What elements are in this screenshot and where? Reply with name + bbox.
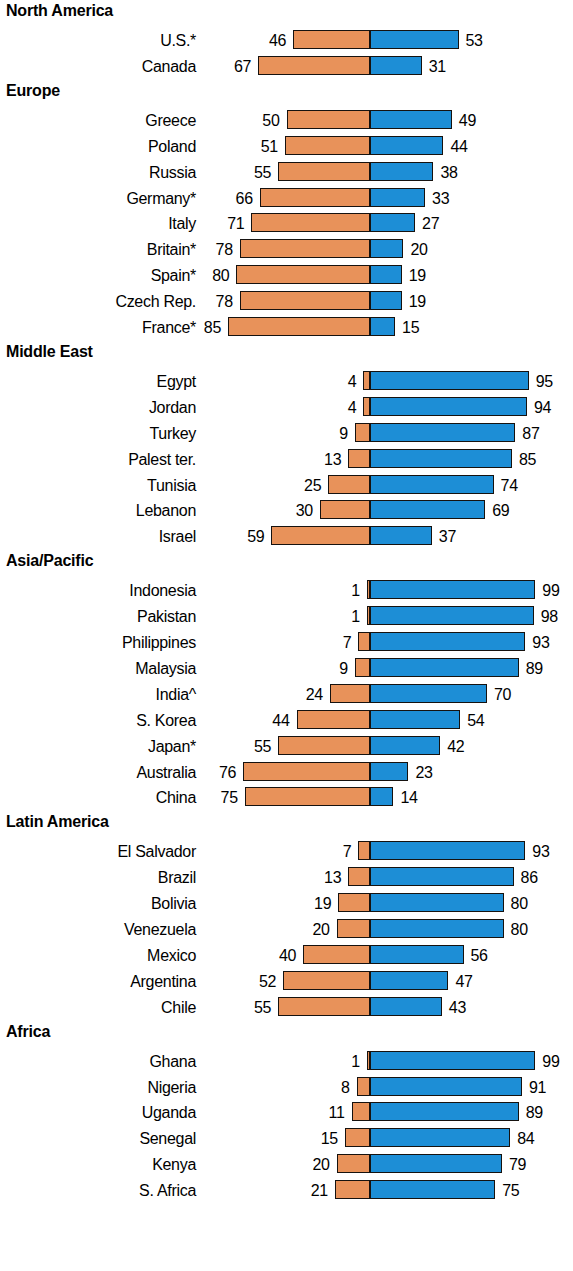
value-label-left: 13 [0,450,341,469]
value-label-right: 95 [536,372,553,391]
value-label-left: 66 [0,189,253,208]
value-label-right: 89 [526,1103,543,1122]
bar-segment-left [260,188,370,207]
bar-segment-right [370,110,452,129]
value-label-right: 85 [519,450,536,469]
value-label-left: 1 [0,1052,360,1071]
value-label-right: 89 [526,659,543,678]
value-label-right: 38 [440,163,457,182]
value-label-right: 80 [511,894,528,913]
chart-row: Canada6731 [0,55,573,78]
chart-row: U.S.*4653 [0,29,573,52]
value-label-right: 37 [439,527,456,546]
chart-row: Greece5049 [0,109,573,132]
bar-segment-right [370,500,485,519]
chart-row: Spain*8019 [0,264,573,287]
bar-segment-left [328,475,370,494]
value-label-right: 43 [449,998,466,1017]
bar-segment-right [370,580,535,599]
bar-segment-right [370,632,525,651]
value-label-right: 99 [542,1052,559,1071]
chart-row: S. Africa2175 [0,1179,573,1202]
chart-row: Italy7127 [0,212,573,235]
bar-segment-left [285,136,370,155]
bar-segment-right [370,423,515,442]
bar-segment-right [370,188,425,207]
value-label-left: 78 [0,292,233,311]
bar-segment-right [370,213,415,232]
bar-segment-left [245,787,370,806]
chart-row: Senegal1584 [0,1127,573,1150]
value-label-left: 20 [0,920,330,939]
chart-row: Tunisia2574 [0,474,573,497]
value-label-left: 71 [0,214,244,233]
bar-segment-right [370,1102,519,1121]
bar-segment-left [357,1077,370,1096]
bar-segment-left [358,841,370,860]
bar-segment-left [337,919,370,938]
bar-segment-right [370,475,494,494]
value-label-left: 15 [0,1129,338,1148]
chart-row: Indonesia199 [0,579,573,602]
bar-segment-left [348,867,370,886]
bar-segment-right [370,1180,495,1199]
value-label-right: 31 [429,57,446,76]
value-label-right: 42 [447,737,464,756]
bar-segment-right [370,162,433,181]
region-heading: Latin America [6,813,109,830]
bar-segment-right [370,136,443,155]
chart-row: Bolivia1980 [0,892,573,915]
bar-segment-right [370,736,440,755]
value-label-right: 53 [466,31,483,50]
value-label-left: 9 [0,659,348,678]
chart-row: Kenya2079 [0,1153,573,1176]
diverging-bar-chart: North AmericaU.S.*4653Canada6731EuropeGr… [0,0,573,1271]
chart-row: Philippines793 [0,631,573,654]
bar-segment-left [271,526,370,545]
value-label-right: 94 [534,398,551,417]
bar-segment-right [370,606,534,625]
value-label-left: 25 [0,476,321,495]
value-label-right: 47 [455,972,472,991]
value-label-left: 30 [0,501,313,520]
value-label-right: 84 [517,1129,534,1148]
bar-segment-left [345,1128,370,1147]
bar-segment-left [320,500,370,519]
value-label-right: 75 [502,1181,519,1200]
chart-row: El Salvador793 [0,840,573,863]
chart-row: Poland5144 [0,135,573,158]
bar-segment-right [370,30,459,49]
value-label-left: 59 [0,527,264,546]
value-label-left: 51 [0,137,278,156]
value-label-right: 19 [409,292,426,311]
value-label-right: 44 [450,137,467,156]
value-label-left: 52 [0,972,276,991]
bar-segment-right [370,919,504,938]
chart-row: Palest ter.1385 [0,448,573,471]
bar-segment-left [240,239,370,258]
value-label-right: 69 [492,501,509,520]
bar-segment-left [283,971,370,990]
value-label-left: 1 [0,581,360,600]
chart-row: Brazil1386 [0,866,573,889]
value-label-left: 21 [0,1181,328,1200]
bar-segment-left [330,684,370,703]
chart-row: Japan*5542 [0,735,573,758]
value-label-right: 27 [422,214,439,233]
bar-segment-left [352,1102,370,1121]
bar-segment-right [370,1154,502,1173]
value-label-right: 87 [522,424,539,443]
value-label-left: 78 [0,240,233,259]
value-label-right: 33 [432,189,449,208]
chart-row: India^2470 [0,683,573,706]
value-label-left: 46 [0,31,286,50]
bar-segment-left [338,893,370,912]
value-label-left: 55 [0,163,271,182]
bar-segment-right [370,997,442,1016]
value-label-left: 4 [0,398,356,417]
chart-row: Russia5538 [0,161,573,184]
value-label-left: 8 [0,1078,350,1097]
value-label-right: 91 [529,1078,546,1097]
value-label-left: 7 [0,842,351,861]
bar-segment-left [243,762,370,781]
